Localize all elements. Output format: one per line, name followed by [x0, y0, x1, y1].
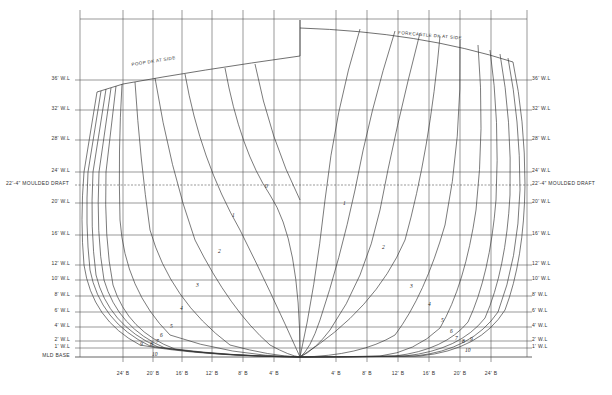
- waterline-label-16: 16' W.L: [0, 230, 70, 236]
- waterline-label-8-right: 8' W.L: [532, 291, 548, 297]
- waterline-label-8: 8' W.L: [0, 291, 70, 297]
- buttock-label-left-4: 4' B: [262, 370, 286, 376]
- waterline-label-28: 28' W.L: [0, 135, 70, 141]
- buttock-label-left-20: 20' B: [141, 370, 165, 376]
- svg-text:1: 1: [343, 200, 346, 206]
- svg-text:4: 4: [428, 301, 431, 307]
- waterline-label-20: 20' W.L: [0, 198, 70, 204]
- buttock-label-left-8: 8' B: [231, 370, 255, 376]
- buttock-label-right-16: 16' B: [417, 370, 441, 376]
- body-plan-svg: 0 1 2 3 4 5 6 7 8 9 10 1 2 3 4 5 6 7 8 9…: [0, 0, 612, 395]
- waterline-label-32-right: 32' W.L: [532, 105, 551, 111]
- waterline-label-20-right: 20' W.L: [532, 198, 551, 204]
- base-line-label: MLD BASE: [0, 352, 70, 358]
- buttock-label-right-8: 8' B: [355, 370, 379, 376]
- waterline-label-16-right: 16' W.L: [532, 230, 551, 236]
- section-numbers: 0 1 2 3 4 5 6 7 8 9 10 1 2 3 4 5 6 7 8 9…: [140, 183, 473, 357]
- draft-label-left: 22'-4" MOULDED DRAFT: [6, 180, 69, 186]
- svg-text:1: 1: [232, 212, 235, 218]
- svg-text:7: 7: [455, 335, 458, 341]
- waterline-label-6-right: 6' W.L: [532, 307, 548, 313]
- draft-label-right: 22'-4" MOULDED DRAFT: [532, 180, 595, 186]
- svg-text:0: 0: [265, 183, 268, 189]
- waterline-label-28-right: 28' W.L: [532, 135, 551, 141]
- waterline-label-10: 10' W.L: [0, 275, 70, 281]
- waterline-label-36-right: 36' W.L: [532, 75, 551, 81]
- svg-text:2: 2: [382, 244, 385, 250]
- svg-text:5: 5: [170, 323, 173, 329]
- svg-text:10: 10: [465, 347, 471, 353]
- svg-text:6: 6: [450, 328, 453, 334]
- svg-text:5: 5: [441, 317, 444, 323]
- buttock-label-left-24: 24' B: [111, 370, 135, 376]
- svg-text:8: 8: [462, 338, 465, 344]
- waterline-label-4-right: 4' W.L: [532, 322, 548, 328]
- waterline-label-32: 32' W.L: [0, 105, 70, 111]
- svg-text:9: 9: [140, 341, 143, 347]
- waterline-label-24: 24' W.L: [0, 167, 70, 173]
- buttock-label-right-20: 20' B: [448, 370, 472, 376]
- aft-sections: [82, 64, 300, 357]
- svg-text:2: 2: [218, 248, 221, 254]
- waterline-label-6: 6' W.L: [0, 307, 70, 313]
- waterline-label-2: 2' W.L: [0, 336, 70, 342]
- svg-text:9: 9: [470, 336, 473, 342]
- svg-text:3: 3: [195, 282, 199, 288]
- svg-text:8: 8: [150, 341, 153, 347]
- waterline-label-12: 12' W.L: [0, 260, 70, 266]
- waterline-label-36: 36' W.L: [0, 75, 70, 81]
- waterline-label-1: 1' W.L: [0, 343, 70, 349]
- svg-text:6: 6: [160, 332, 163, 338]
- buttock-label-left-16: 16' B: [170, 370, 194, 376]
- buttock-label-right-12: 12' B: [386, 370, 410, 376]
- waterline-label-12-right: 12' W.L: [532, 260, 551, 266]
- waterline-label-24-right: 24' W.L: [532, 167, 551, 173]
- waterline-label-4: 4' W.L: [0, 322, 70, 328]
- buttock-label-left-12: 12' B: [200, 370, 224, 376]
- buttock-label-right-24: 24' B: [479, 370, 503, 376]
- buttock-label-right-4: 4' B: [324, 370, 348, 376]
- svg-text:4: 4: [180, 305, 183, 311]
- svg-text:7: 7: [156, 338, 159, 344]
- waterline-label-2-right: 2' W.L: [532, 336, 548, 342]
- svg-text:3: 3: [409, 283, 413, 289]
- waterline-label-1-right: 1' W.L: [532, 343, 548, 349]
- waterline-label-10-right: 10' W.L: [532, 275, 551, 281]
- deck-lines: [97, 20, 513, 92]
- body-plan-drawing: 0 1 2 3 4 5 6 7 8 9 10 1 2 3 4 5 6 7 8 9…: [0, 0, 612, 395]
- svg-text:10: 10: [152, 351, 158, 357]
